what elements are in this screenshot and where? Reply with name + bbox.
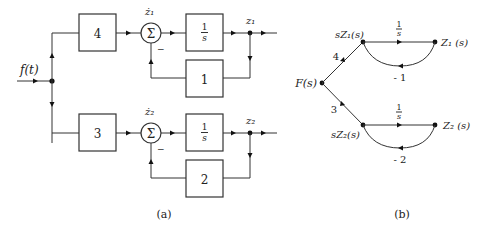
block-diagram-a: f(t) 4 Σ ż₁ − 1 s z₁ 1 bbox=[17, 6, 277, 221]
integrator-denominator: s bbox=[202, 133, 207, 143]
arrow-icon bbox=[261, 131, 266, 136]
output-label: z₂ bbox=[245, 115, 255, 126]
arrow-icon bbox=[126, 131, 131, 136]
arrow-down-icon bbox=[248, 56, 253, 61]
branch-gain-den: s bbox=[397, 29, 401, 38]
diagram-canvas: f(t) 4 Σ ż₁ − 1 s z₁ 1 bbox=[0, 0, 481, 235]
branch-gain-den: s bbox=[397, 112, 401, 121]
node-label-Z1: Z₁ (s) bbox=[440, 37, 468, 48]
arrow-icon bbox=[33, 79, 38, 84]
feedback-gain: 1 bbox=[201, 73, 209, 87]
input-label: f(t) bbox=[19, 63, 39, 77]
feedback-branch bbox=[363, 42, 435, 66]
output-label: z₁ bbox=[245, 15, 255, 26]
arrow-icon bbox=[170, 31, 175, 36]
sum-output-label: ż₂ bbox=[144, 106, 154, 117]
branch-gain: 4 bbox=[333, 51, 339, 62]
arrow-icon bbox=[170, 131, 175, 136]
branch-gain-num: 1 bbox=[396, 20, 401, 29]
arrow-icon bbox=[398, 64, 403, 69]
integrator-denominator: s bbox=[202, 33, 207, 43]
branch-gain-num: 1 bbox=[396, 103, 401, 112]
arrow-icon bbox=[231, 31, 236, 36]
arrow-up-icon bbox=[50, 53, 55, 58]
minus-sign: − bbox=[157, 44, 165, 54]
branch-gain: 3 bbox=[331, 104, 337, 115]
arrow-icon bbox=[397, 40, 402, 45]
feedback-gain: - 1 bbox=[394, 72, 407, 83]
node-label-sZ1: sZ₁(s) bbox=[335, 29, 364, 40]
caption-a: (a) bbox=[156, 208, 171, 221]
node-label-Z2: Z₂ (s) bbox=[442, 120, 470, 131]
sigma-symbol: Σ bbox=[147, 127, 155, 141]
gain-value: 3 bbox=[94, 127, 102, 141]
caption-b: (b) bbox=[394, 208, 410, 221]
arrow-up-icon bbox=[149, 159, 154, 164]
signal-flow-graph-b: F(s) 4 sZ₁(s) 1 s Z₁ (s) - 1 3 sZ₂(s) 1 … bbox=[294, 20, 470, 221]
integrator-numerator: 1 bbox=[202, 22, 208, 32]
integrator-numerator: 1 bbox=[202, 122, 208, 132]
gain-value: 4 bbox=[94, 27, 102, 41]
arrow-icon bbox=[398, 146, 403, 151]
arrow-icon bbox=[340, 57, 345, 62]
node-label-sZ2: sZ₂(s) bbox=[331, 129, 360, 140]
node-label-F: F(s) bbox=[294, 77, 317, 90]
arrow-up-icon bbox=[149, 59, 154, 64]
feedback-gain: 2 bbox=[201, 173, 209, 187]
arrow-icon bbox=[261, 31, 266, 36]
arrow-icon bbox=[231, 131, 236, 136]
arrow-down-icon bbox=[248, 153, 253, 158]
sigma-symbol: Σ bbox=[147, 27, 155, 41]
arrow-down-icon bbox=[50, 102, 55, 107]
sum-output-label: ż₁ bbox=[144, 6, 154, 17]
arrow-icon bbox=[126, 31, 131, 36]
branch bbox=[322, 42, 363, 83]
arrow-icon bbox=[397, 123, 402, 128]
minus-sign: − bbox=[157, 144, 165, 154]
feedback-gain: - 2 bbox=[394, 154, 407, 165]
feedback-branch bbox=[363, 125, 435, 148]
